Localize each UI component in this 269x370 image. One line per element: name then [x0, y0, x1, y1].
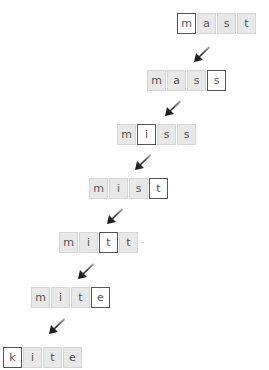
letter-box: i [51, 287, 70, 308]
letter-box: m [117, 124, 136, 145]
letter-box: s [217, 13, 236, 34]
letter-box: s [187, 70, 206, 91]
word-row-1: m a s t [177, 13, 256, 34]
letter-box: s [129, 178, 148, 199]
word-row-7: k i t e [3, 347, 82, 368]
word-row-5: m i t t [59, 232, 138, 253]
letter-box: s [157, 124, 176, 145]
arrow-down-left-icon [193, 45, 211, 63]
letter-box: t [119, 232, 138, 253]
arrow-down-left-icon [77, 262, 95, 280]
letter-box-highlighted: i [137, 124, 156, 145]
letter-box: e [63, 347, 82, 368]
letter-box: a [167, 70, 186, 91]
letter-box: m [147, 70, 166, 91]
arrow-down-left-icon [164, 99, 182, 117]
letter-box: t [71, 287, 90, 308]
word-row-3: m i s s [117, 124, 196, 145]
arrow-down-left-icon [48, 317, 66, 335]
letter-box: m [59, 232, 78, 253]
word-ladder: m a s t m a s s m i s s m i s t m i t [0, 0, 269, 370]
letter-box-highlighted: t [99, 232, 118, 253]
letter-box-highlighted: m [177, 13, 196, 34]
letter-box: t [237, 13, 256, 34]
letter-box-highlighted: s [207, 70, 226, 91]
letter-box-highlighted: k [3, 347, 22, 368]
word-row-4: m i s t [89, 178, 168, 199]
trailing-mark: - [141, 237, 144, 247]
letter-box: i [23, 347, 42, 368]
letter-box: a [197, 13, 216, 34]
letter-box: i [109, 178, 128, 199]
arrow-down-left-icon [134, 153, 152, 171]
letter-box: t [43, 347, 62, 368]
word-row-2: m a s s [147, 70, 226, 91]
arrow-down-left-icon [106, 207, 124, 225]
letter-box-highlighted: e [91, 287, 110, 308]
letter-box-highlighted: t [149, 178, 168, 199]
letter-box: m [31, 287, 50, 308]
letter-box: s [177, 124, 196, 145]
letter-box: i [79, 232, 98, 253]
word-row-6: m i t e [31, 287, 110, 308]
letter-box: m [89, 178, 108, 199]
